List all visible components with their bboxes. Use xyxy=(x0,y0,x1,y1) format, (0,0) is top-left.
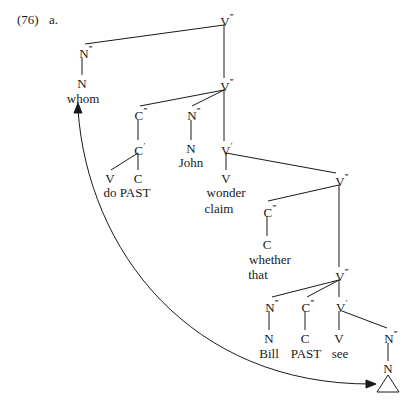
word-that: that xyxy=(248,268,268,281)
node-do-cp: C‴ xyxy=(134,106,145,122)
node-object-n: N xyxy=(383,362,392,375)
node-object-np: N‴ xyxy=(384,329,396,345)
node-wonder-v-bar: V′ xyxy=(221,141,231,157)
node-do-c-bar: C′ xyxy=(134,141,143,157)
node-embedded-vp: V‴ xyxy=(335,172,347,188)
node-bill-n: N xyxy=(264,332,273,345)
node-past-c-lower: C xyxy=(301,332,310,345)
node-wonder-v: V xyxy=(221,172,230,185)
node-second-vp: V‴ xyxy=(220,77,232,93)
node-lowest-vp: V‴ xyxy=(335,267,347,283)
node-john-np: N‴ xyxy=(187,106,199,122)
words-do-past: do PAST xyxy=(104,186,151,199)
syntax-tree-diagram: (76) a. xyxy=(0,0,418,407)
word-bill: Bill xyxy=(259,347,279,360)
node-root-vp: V‴ xyxy=(220,12,232,28)
trace-triangle-icon xyxy=(377,375,399,392)
word-see: see xyxy=(332,347,349,360)
node-past-cp: C‴ xyxy=(301,298,312,314)
node-whom-n: N xyxy=(77,77,86,90)
word-past: PAST xyxy=(291,347,322,360)
node-john-n: N xyxy=(186,142,195,155)
node-see-v: V xyxy=(334,332,343,345)
node-bill-np: N‴ xyxy=(265,298,277,314)
word-whom: whom xyxy=(67,92,100,105)
word-wonder: wonder xyxy=(207,186,246,199)
node-see-v-bar: V′ xyxy=(336,298,346,314)
word-whether: whether xyxy=(249,253,291,266)
node-past-c: C xyxy=(134,172,143,185)
node-whether-c: C xyxy=(263,238,272,251)
arrowhead-right-icon xyxy=(366,380,376,388)
word-claim: claim xyxy=(205,202,234,215)
node-do-v: V xyxy=(105,172,114,185)
node-whether-cp: C‴ xyxy=(263,203,274,219)
node-whom-np: N‴ xyxy=(79,44,91,60)
word-john: John xyxy=(179,156,204,169)
